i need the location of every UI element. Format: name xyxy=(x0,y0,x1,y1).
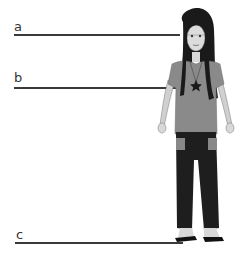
face xyxy=(187,25,205,51)
left-pocket xyxy=(176,138,185,150)
right-hand xyxy=(226,123,234,133)
neck xyxy=(192,52,200,62)
right-foot xyxy=(204,228,220,238)
right-arm xyxy=(217,80,232,127)
left-hand xyxy=(158,123,166,133)
girl-figure xyxy=(0,0,242,256)
right-flipflop xyxy=(203,237,224,242)
left-arm xyxy=(160,80,174,127)
shirt xyxy=(168,61,224,134)
right-pocket xyxy=(208,138,217,150)
